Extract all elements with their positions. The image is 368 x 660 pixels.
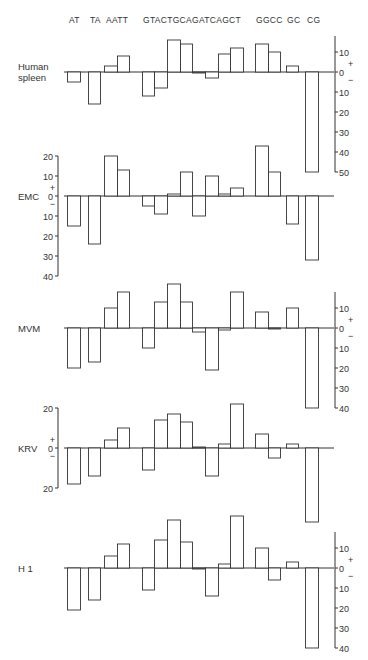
axis-tick-label: 40 [339,644,349,654]
bar-gt [143,196,155,206]
axis-zero-label: 0 [339,324,344,334]
bar-ac [155,72,168,88]
bar-ac [155,540,168,568]
axis-tick-label: 10 [43,172,53,182]
panel-label: H 1 [18,563,33,574]
axis-tick-label: 10 [339,544,349,554]
bar-ta [89,328,101,362]
bar-tc [206,72,219,78]
bar-ta [89,196,101,244]
positive-sign: + [348,555,353,565]
bar-gc [287,444,299,448]
bar-gt [143,448,155,470]
bar-ga [193,568,206,569]
bar-cg [306,72,319,172]
bar-ga [193,447,206,448]
bar-aa [105,308,118,328]
axis-zero-label: 0 [339,564,344,574]
negative-sign: − [348,75,353,85]
bar-gc [287,562,299,568]
bar-at [68,448,81,484]
bar-tg [168,520,181,568]
bar-tg [168,194,181,196]
bar-tg [168,284,181,328]
bar-tc [206,328,219,370]
bar-ga [193,72,206,73]
chart-canvas: ATTAAATTGTACTGCAGATCAGCTGGCCGCCGHumanspl… [0,0,368,660]
axis-tick-label: 20 [43,404,53,414]
bar-tc [206,448,219,476]
axis-tick-label: 20 [43,152,53,162]
bar-aa [105,66,118,72]
bar-ag [219,194,231,196]
panel-label: Human [18,61,49,72]
negative-sign: − [348,571,353,581]
axis-tick-label: 10 [339,48,349,58]
bar-gc [287,308,299,328]
bar-at [68,328,81,368]
bar-at [68,196,81,226]
bar-gc [287,196,299,224]
axis-tick-label: 40 [43,272,53,282]
bar-ac [155,196,168,214]
bar-ag [219,564,231,568]
bar-cc [269,172,281,196]
bar-ca [181,542,193,568]
dinucleotide-header-label: AT [69,15,80,25]
bar-cc [269,52,281,72]
positive-sign: + [50,435,55,445]
bar-ag [219,444,231,448]
bar-gg [256,548,269,568]
bar-ct [231,292,244,328]
dinucleotide-frequency-chart: ATTAAATTGTACTGCAGATCAGCTGGCCGCCGHumanspl… [0,0,368,660]
bar-cg [306,568,319,648]
bar-cg [306,196,319,260]
bar-tt [118,292,130,328]
bar-gc [287,66,299,72]
bar-ct [231,188,244,196]
bar-gg [256,434,269,448]
bar-gt [143,568,155,590]
bar-cc [269,568,281,580]
axis-tick-label: 30 [339,384,349,394]
positive-sign: + [50,183,55,193]
bar-tt [118,428,130,448]
bar-gg [256,312,269,328]
bar-ca [181,172,193,196]
bar-at [68,568,81,610]
bar-ca [181,302,193,328]
bar-tt [118,544,130,568]
bar-ct [231,516,244,568]
bar-ta [89,72,101,104]
bar-ga [193,328,206,332]
positive-sign: + [348,59,353,69]
axis-tick-label: 20 [43,232,53,242]
bar-tg [168,414,181,448]
bar-ac [155,302,168,328]
axis-tick-label: 50 [339,168,349,178]
axis-tick-label: 10 [43,212,53,222]
bar-ta [89,568,101,600]
bar-tt [118,170,130,196]
bar-ag [219,54,231,72]
bar-tt [118,56,130,72]
bar-gt [143,72,155,96]
bar-tg [168,40,181,72]
axis-tick-label: 40 [339,404,349,414]
bar-ca [181,422,193,448]
dinucleotide-header-label: CG [307,15,320,25]
positive-sign: + [348,315,353,325]
axis-tick-label: 10 [339,344,349,354]
bar-cc [269,328,281,329]
bar-ct [231,48,244,72]
panel-label: KRV [18,443,38,454]
bar-ct [231,404,244,448]
panel-label: spleen [18,72,46,83]
panel-label: MVM [18,323,40,334]
bar-tc [206,176,219,196]
bar-cg [306,448,319,522]
dinucleotide-header-label: GTACTGCAGATCAGCT [143,15,241,25]
axis-tick-label: 40 [339,148,349,158]
bar-aa [105,156,118,196]
axis-tick-label: 10 [339,304,349,314]
